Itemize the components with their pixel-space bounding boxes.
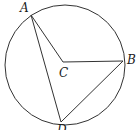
label-a: A bbox=[19, 1, 29, 15]
circle bbox=[5, 5, 125, 125]
segment-CB bbox=[63, 61, 123, 62]
segment-BD bbox=[61, 61, 123, 122]
label-b: B bbox=[126, 53, 136, 67]
segment-AC bbox=[31, 15, 63, 62]
segment-AD bbox=[31, 15, 61, 122]
label-c: C bbox=[59, 66, 68, 80]
geometry-diagram: A B C D bbox=[0, 0, 137, 130]
label-d: D bbox=[56, 123, 67, 130]
